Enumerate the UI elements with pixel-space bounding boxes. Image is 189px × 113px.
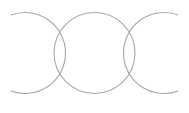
right-ring-arc [123, 13, 178, 94]
rings-diagram [0, 0, 189, 113]
middle-ring-circle [54, 13, 135, 94]
left-ring-arc [11, 13, 66, 94]
